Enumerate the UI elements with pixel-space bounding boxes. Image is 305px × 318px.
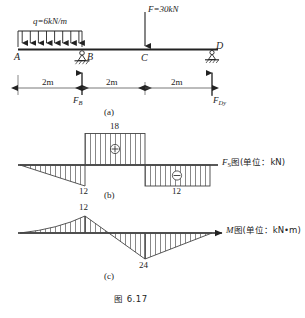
dimension-label-ab: 2m — [42, 78, 54, 87]
node-label-a: A — [14, 52, 20, 62]
distributed-load — [18, 31, 82, 47]
moment-segment-ab — [20, 216, 85, 233]
moment-axis-main: M — [226, 225, 234, 235]
support-d — [205, 50, 219, 63]
point-load-label: F=30kN — [148, 5, 179, 14]
bending-moment-diagram — [18, 216, 222, 259]
shear-force-diagram — [18, 134, 218, 187]
shear-value-12-right: 12 — [172, 187, 181, 196]
moment-value-12: 12 — [79, 203, 88, 212]
part-label-b: (b) — [104, 191, 115, 200]
dimension-label-cd: 2m — [171, 78, 183, 87]
node-label-d: D — [216, 41, 223, 51]
shear-axis-unit: 图(单位：kN) — [231, 157, 285, 167]
load-arrow-group — [22, 31, 79, 43]
reaction-label-fb: FB — [73, 96, 82, 106]
figure-container: q=6kN/m F=30kN A B C D 2m 2m 2m FB FDy (… — [0, 0, 305, 318]
reaction-fdy-sub: Dy — [219, 99, 227, 106]
shear-value-12-left: 12 — [79, 187, 88, 196]
moment-axis-label: M图(单位：kN•m) — [226, 226, 301, 235]
part-label-c: (c) — [104, 272, 114, 281]
reaction-fb-sub: B — [79, 99, 83, 106]
moment-segment-cd — [145, 233, 212, 259]
shear-axis-label: FS图(单位：kN) — [222, 158, 285, 168]
shear-negative-marker — [172, 171, 181, 180]
part-label-a: (a) — [104, 108, 114, 117]
node-label-c: C — [141, 53, 148, 63]
reaction-arrows — [82, 73, 212, 96]
moment-axis-unit: 图(单位：kN•m) — [234, 225, 301, 235]
dimension-label-bc: 2m — [106, 78, 118, 87]
figure-caption: 图 6.17 — [114, 295, 148, 304]
shear-value-18: 18 — [110, 122, 119, 131]
moment-segment-bc — [85, 216, 145, 259]
shear-segment-ab — [20, 165, 85, 186]
moment-value-24: 24 — [139, 261, 148, 270]
reaction-label-fdy: FDy — [213, 96, 226, 106]
shear-positive-marker — [110, 144, 119, 153]
distributed-load-label: q=6kN/m — [33, 17, 67, 26]
node-label-b: B — [87, 52, 93, 62]
